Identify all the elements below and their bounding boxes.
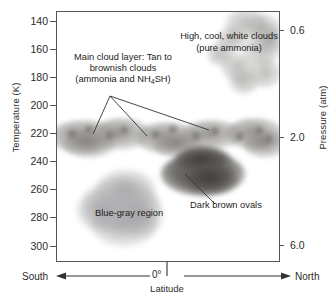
annotation-main-cloud-layer-line1: Main cloud layer: Tan to [58, 52, 188, 64]
y-tick-label-220: 220 [18, 127, 48, 139]
annotation-blue-gray-region: Blue-gray region [95, 208, 163, 220]
y-axis-right-title: Pressure (atm) [317, 68, 328, 168]
y-tick-label-160: 160 [18, 43, 48, 55]
y-tick-label-240: 240 [18, 155, 48, 167]
annotation-white-clouds: High, cool, white clouds (pure ammonia) [166, 31, 292, 54]
p-tick-label-0-6: 0.6 [290, 24, 320, 36]
jupiter-cloud-structure-figure: Temperature (K) 140 160 180 200 220 240 … [0, 0, 334, 296]
y-tick-label-260: 260 [18, 183, 48, 195]
x-axis: South North 0° Latitude [0, 262, 334, 296]
y-tick-label-300: 300 [18, 240, 48, 252]
x-axis-title: Latitude [0, 283, 334, 294]
y-tick-label-180: 180 [18, 71, 48, 83]
annotation-main-cloud-layer-line3: (ammonia and NH4SH) [58, 74, 188, 88]
y-tick-label-200: 200 [18, 99, 48, 111]
p-tick-label-6-0: 6.0 [290, 239, 320, 251]
leader-line-main-layer-right [110, 96, 209, 130]
y-tick-label-280: 280 [18, 211, 48, 223]
annotation-main-cloud-layer-line2: brownish clouds [58, 63, 188, 75]
y-tick-label-140: 140 [18, 15, 48, 27]
formula-pre: (ammonia and NH [75, 74, 150, 84]
formula-post: SH) [155, 74, 171, 84]
p-tick-label-2-0: 2.0 [290, 131, 320, 143]
leader-line-main-layer-left [93, 96, 110, 134]
annotation-dark-brown-ovals: Dark brown ovals [190, 200, 262, 212]
